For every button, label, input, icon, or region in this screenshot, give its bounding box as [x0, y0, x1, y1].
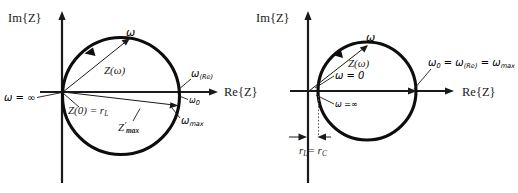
right-omega-relation-leader	[414, 69, 431, 89]
svg-text:ωmax: ωmax	[181, 115, 204, 128]
left-omega-point-label: ω	[126, 26, 135, 39]
right-re-axis-label: Re{Z}	[462, 85, 496, 99]
nyquist-impedance-figure: Im{Z} Re{Z} ω = ∞ ω Z(ω) Z(0) = rL Z′max	[0, 0, 518, 193]
left-zmax-label: Z′max	[118, 120, 140, 136]
left-omega-infinity-leader	[37, 93, 62, 98]
right-im-axis-label: Im{Z}	[256, 11, 290, 25]
left-zmax-leader	[133, 109, 140, 122]
svg-text:ω(Re): ω(Re)	[191, 68, 213, 81]
left-omega-re-label: ω(Re)	[191, 68, 213, 81]
right-z-omega-label: Z(ω)	[348, 57, 370, 70]
svg-text:rL= rC: rL= rC	[299, 144, 327, 158]
left-omega-max-label: ωmax	[181, 115, 204, 128]
left-panel: Im{Z} Re{Z} ω = ∞ ω Z(ω) Z(0) = rL Z′max	[4, 11, 258, 183]
right-dimension-arrows	[289, 134, 331, 141]
svg-text:ω0: ω0	[189, 96, 200, 107]
left-re-axis-label: Re{Z}	[224, 85, 258, 99]
right-omega-zero-label: ω = 0	[335, 70, 364, 81]
right-real-axis	[290, 87, 454, 94]
svg-text:Z′max: Z′max	[118, 120, 140, 136]
right-omega-relation-label: ω0 = ω(Re) = ωmax	[428, 57, 515, 70]
svg-text:Z(0) = rL: Z(0) = rL	[68, 104, 108, 118]
left-omega-re-leader	[178, 79, 191, 90]
right-radius-dimension-label: rL= rC	[299, 144, 327, 158]
right-omega-point-label: ω	[366, 31, 375, 44]
left-omega-infinity-label: ω = ∞	[4, 92, 35, 103]
right-panel: Im{Z} Re{Z} ω Z(ω) ω = 0 ω =∞ ω0 = ω(Re)…	[256, 11, 515, 183]
svg-text:ω0 = ω(Re) = ωmax: ω0 = ω(Re) = ωmax	[428, 57, 515, 70]
left-z-omega-label: Z(ω)	[104, 64, 126, 77]
left-z0-rl-label: Z(0) = rL	[68, 104, 108, 118]
left-impedance-circle	[63, 38, 180, 155]
left-omega-zero-label: ω0	[189, 96, 200, 107]
left-im-axis-label: Im{Z}	[8, 11, 42, 25]
right-omega-infinity-label: ω =∞	[335, 100, 358, 109]
